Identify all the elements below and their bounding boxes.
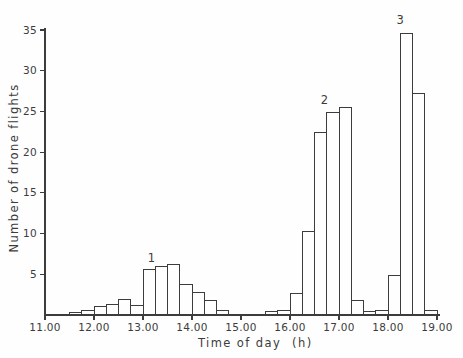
x-tick-label: 16.00 (274, 321, 306, 333)
histogram-bar (106, 304, 118, 315)
histogram-bar (315, 133, 327, 315)
histogram-bar (82, 311, 94, 315)
plot-area: 510152025303511.0012.0013.0014.0015.0016… (0, 0, 463, 358)
peak-label-1: 1 (148, 251, 155, 265)
y-tick-label: 10 (23, 227, 37, 239)
histogram-bar (192, 292, 204, 315)
histogram-bar (131, 305, 143, 315)
histogram-bar (155, 266, 167, 315)
histogram-bar (143, 269, 155, 315)
peak-labels-group: 123 (148, 13, 404, 265)
x-axis-title-text: Time of day (198, 336, 281, 350)
histogram-bar (278, 310, 290, 315)
histogram-bar (388, 276, 400, 315)
y-tick-label: 35 (23, 24, 37, 36)
x-tick-label: 14.00 (176, 321, 208, 333)
histogram-bar (339, 107, 351, 315)
histogram-bar (94, 307, 106, 315)
x-axis-unit-label: (h) (292, 336, 312, 350)
axis-lines (45, 28, 440, 315)
x-axis-title: Time of day(h) (198, 336, 313, 350)
histogram-bar (217, 311, 229, 315)
histogram-bar (327, 112, 339, 315)
y-tick-label: 25 (23, 105, 37, 117)
y-tick-label: 15 (23, 186, 37, 198)
histogram-bar (376, 310, 388, 315)
x-tick-label: 15.00 (225, 321, 257, 333)
peak-label-3: 3 (397, 13, 404, 27)
histogram-bar (204, 300, 216, 315)
bars-group (70, 33, 438, 315)
histogram-bar (302, 231, 314, 315)
y-tick-label: 20 (23, 146, 37, 158)
y-tick-label: 30 (23, 64, 37, 76)
histogram-bar (180, 285, 192, 315)
histogram-bar (351, 300, 363, 315)
x-tick-label: 13.00 (127, 321, 159, 333)
histogram-bar (290, 293, 302, 315)
axes-group (45, 28, 440, 315)
histogram-bar (400, 33, 412, 315)
histogram-bar (425, 310, 437, 315)
x-tick-label: 19.00 (421, 321, 453, 333)
peak-label-2: 2 (321, 93, 328, 107)
drone-flights-histogram-figure: 510152025303511.0012.0013.0014.0015.0016… (0, 0, 463, 358)
histogram-bar (413, 94, 425, 315)
y-tick-label: 5 (30, 268, 37, 280)
x-tick-label: 18.00 (372, 321, 404, 333)
histogram-bar (119, 300, 131, 315)
x-tick-label: 12.00 (78, 321, 110, 333)
histogram-bar (168, 265, 180, 315)
x-tick-label: 17.00 (323, 321, 355, 333)
y-axis-title: Number of drone flights (7, 83, 21, 252)
x-tick-label: 11.00 (29, 321, 61, 333)
